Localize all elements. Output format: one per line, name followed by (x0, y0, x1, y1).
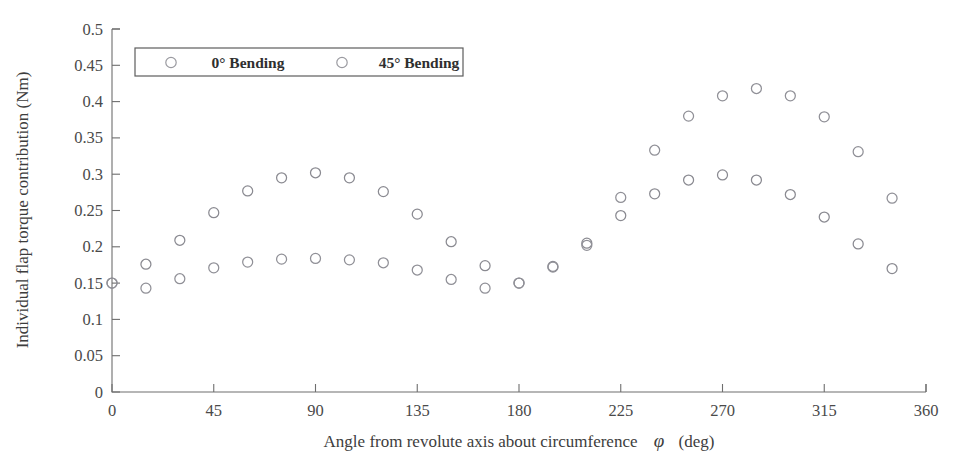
y-tick-label-2: 0.1 (82, 310, 103, 329)
chart-legend[interactable]: 0° Bending 45° Bending (135, 48, 463, 76)
svg-text:Angle from revolute axis about: Angle from revolute axis about circumfer… (324, 430, 715, 451)
y-tick-label-10: 0.5 (82, 20, 103, 39)
y-axis-title: Individual flap torque contribution (Nm) (13, 72, 32, 349)
y-tick-label-5: 0.25 (74, 201, 103, 220)
y-tick-label-7: 0.35 (74, 128, 103, 147)
x-axis-title-text: Angle from revolute axis about circumfer… (324, 432, 638, 451)
x-tick-label-6: 270 (710, 401, 735, 420)
x-tick-label-3: 135 (405, 401, 430, 420)
x-tick-label-2: 90 (307, 401, 324, 420)
x-axis-symbol-phi: φ (654, 430, 665, 451)
y-tick-label-4: 0.2 (82, 237, 103, 256)
x-tick-label-8: 360 (914, 401, 939, 420)
x-tick-label-7: 315 (812, 401, 837, 420)
y-tick-label-3: 0.15 (74, 274, 103, 293)
x-axis-title: Angle from revolute axis about circumfer… (324, 430, 715, 451)
x-tick-label-5: 225 (608, 401, 633, 420)
x-axis-unit: (deg) (679, 432, 715, 451)
y-tick-label-6: 0.3 (82, 165, 103, 184)
legend-label-0: 0° Bending (212, 54, 285, 71)
y-tick-label-8: 0.4 (82, 92, 103, 111)
x-tick-label-1: 45 (206, 401, 223, 420)
y-tick-label-9: 0.45 (74, 56, 103, 75)
y-tick-label-0: 0 (95, 383, 103, 402)
chart-canvas: 00.050.10.150.20.250.30.350.40.450.5 045… (0, 0, 971, 461)
legend-label-1: 45° Bending (379, 54, 460, 71)
y-tick-label-1: 0.05 (74, 346, 103, 365)
x-tick-label-0: 0 (108, 401, 116, 420)
x-tick-label-4: 180 (507, 401, 532, 420)
scatter-chart-figure: 00.050.10.150.20.250.30.350.40.450.5 045… (0, 0, 971, 461)
